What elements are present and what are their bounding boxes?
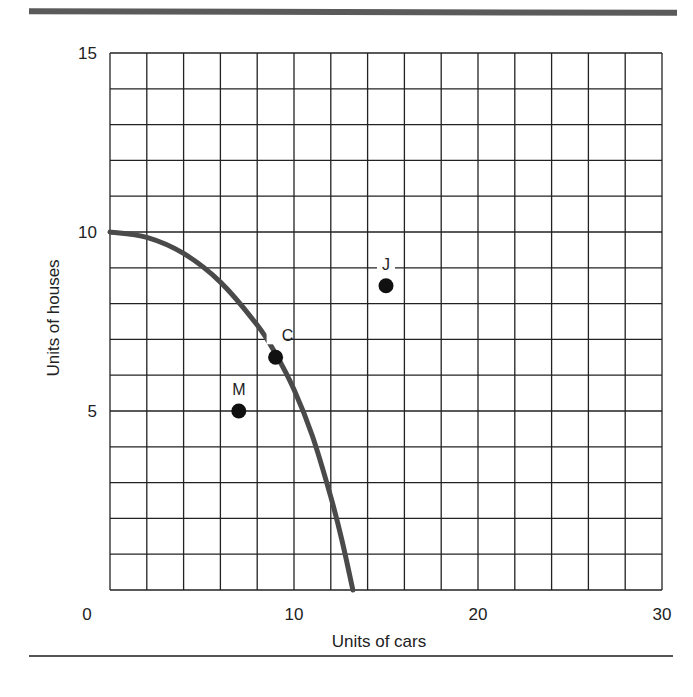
y-tick-label: 10 bbox=[78, 223, 97, 242]
point-j: J bbox=[377, 253, 395, 294]
x-tick-label: 10 bbox=[285, 605, 304, 624]
point-marker bbox=[231, 404, 246, 419]
grid bbox=[110, 53, 662, 590]
y-axis-ticks: 51015 bbox=[78, 44, 97, 421]
point-label: C bbox=[282, 327, 294, 344]
data-points: MCJ bbox=[230, 253, 395, 419]
x-axis-ticks: 0102030 bbox=[82, 605, 671, 624]
ppf-chart: MCJ 0102030 51015 Units of cars Units of… bbox=[0, 0, 693, 697]
x-tick-label: 20 bbox=[469, 605, 488, 624]
y-tick-label: 5 bbox=[88, 402, 97, 421]
y-axis-label: Units of houses bbox=[44, 259, 63, 376]
point-marker bbox=[268, 350, 283, 365]
point-marker bbox=[379, 278, 394, 293]
x-tick-label: 30 bbox=[653, 605, 672, 624]
point-m: M bbox=[230, 378, 248, 419]
x-tick-label: 0 bbox=[82, 605, 91, 624]
y-tick-label: 15 bbox=[78, 44, 97, 63]
point-label: J bbox=[382, 256, 390, 273]
point-label: M bbox=[232, 381, 245, 398]
bottom-rule bbox=[29, 655, 673, 657]
x-axis-label: Units of cars bbox=[332, 632, 426, 651]
